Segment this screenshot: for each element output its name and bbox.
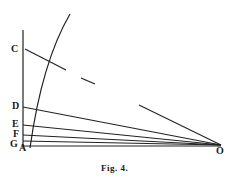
line-c-segment-2	[81, 78, 95, 84]
label-o: O	[216, 146, 224, 156]
label-a: A	[19, 143, 26, 153]
diagram-figure	[0, 0, 239, 181]
figure-caption: Fig. 4.	[101, 163, 128, 173]
line-d-o	[23, 107, 221, 145]
label-g: G	[10, 139, 18, 149]
label-d: D	[12, 101, 19, 111]
line-c-segment-1	[25, 49, 66, 70]
label-c: C	[11, 44, 18, 54]
line-c-segment-3	[139, 105, 221, 145]
